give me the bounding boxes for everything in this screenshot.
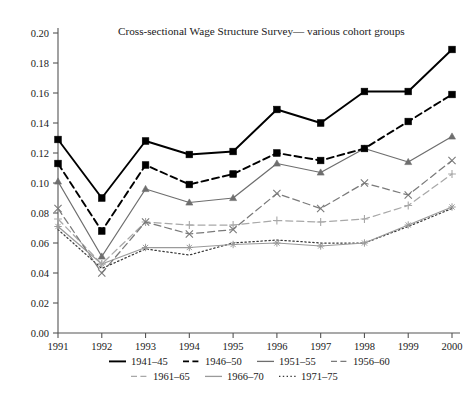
figure-container: 0.000.020.040.060.080.100.120.140.160.18… (0, 0, 467, 405)
series-marker-1956-60 (405, 191, 412, 198)
series-marker-1961-65 (448, 170, 456, 178)
series-line-1941-45 (58, 50, 452, 199)
series-marker-1946-50 (274, 150, 281, 157)
y-tick-label: 0.06 (31, 238, 49, 249)
legend-label-1946-50: 1946–50 (205, 356, 242, 367)
series-marker-1951-55 (55, 178, 62, 184)
legend-label-1971-75: 1971–75 (301, 371, 338, 382)
series-marker-1966-70 (405, 221, 412, 228)
series-marker-1956-60 (273, 190, 280, 197)
series-marker-1966-70 (229, 241, 236, 248)
series-marker-1961-65 (185, 221, 193, 229)
x-tick-label: 1998 (354, 341, 375, 352)
series-marker-1966-70 (273, 239, 280, 246)
series-marker-1951-55 (449, 133, 456, 139)
y-tick-label: 0.16 (31, 88, 49, 99)
series-marker-1941-45 (98, 195, 105, 202)
x-tick-label: 1999 (398, 341, 419, 352)
y-tick-label: 0.08 (31, 208, 49, 219)
y-tick-label: 0.20 (31, 28, 49, 39)
series-marker-1946-50 (186, 181, 193, 188)
legend-label-1951-55: 1951–55 (279, 356, 316, 367)
series-marker-1946-50 (230, 171, 237, 178)
wage-structure-line-chart: 0.000.020.040.060.080.100.120.140.160.18… (0, 0, 467, 405)
series-marker-1946-50 (98, 228, 105, 235)
x-tick-label: 1992 (91, 341, 112, 352)
series-marker-1956-60 (361, 179, 368, 186)
series-line-1961-65 (58, 174, 452, 264)
series-marker-1961-65 (317, 218, 325, 226)
series-marker-1946-50 (405, 118, 412, 125)
series-marker-1966-70 (54, 223, 61, 230)
x-tick-label: 2000 (442, 341, 463, 352)
x-tick-label: 1993 (135, 341, 156, 352)
series-marker-1961-65 (273, 217, 281, 225)
chart-title: Cross-sectional Wage Structure Survey— v… (118, 25, 405, 37)
series-marker-1946-50 (55, 160, 62, 167)
series-marker-1956-60 (98, 269, 105, 276)
series-marker-1966-70 (186, 244, 193, 251)
series-marker-1941-45 (361, 88, 368, 95)
x-tick-label: 1997 (310, 341, 331, 352)
x-tick-label: 1996 (266, 341, 287, 352)
x-tick-label: 1991 (48, 341, 69, 352)
series-marker-1941-45 (142, 138, 149, 145)
series-marker-1941-45 (186, 151, 193, 158)
series-marker-1941-45 (405, 88, 412, 95)
series-marker-1946-50 (142, 162, 149, 169)
y-tick-label: 0.04 (31, 268, 50, 279)
series-marker-1946-50 (361, 145, 368, 152)
series-marker-1941-45 (317, 120, 324, 127)
series-marker-1941-45 (274, 106, 281, 113)
y-tick-label: 0.10 (31, 178, 49, 189)
legend-label-1961-65: 1961–65 (153, 371, 190, 382)
series-marker-1951-55 (273, 160, 280, 166)
y-tick-label: 0.00 (31, 328, 49, 339)
y-tick-label: 0.14 (31, 118, 50, 129)
series-marker-1966-70 (361, 239, 368, 246)
series-line-1946-50 (58, 95, 452, 232)
y-tick-label: 0.18 (31, 58, 49, 69)
series-marker-1941-45 (55, 136, 62, 143)
series-marker-1946-50 (317, 157, 324, 164)
series-marker-1966-70 (448, 203, 455, 210)
y-tick-label: 0.02 (31, 298, 49, 309)
x-tick-label: 1995 (223, 341, 244, 352)
series-marker-1956-60 (317, 205, 324, 212)
series-marker-1966-70 (317, 242, 324, 249)
x-tick-label: 1994 (179, 341, 201, 352)
y-tick-label: 0.12 (31, 148, 49, 159)
series-marker-1941-45 (230, 148, 237, 155)
series-marker-1961-65 (361, 215, 369, 223)
series-marker-1951-55 (142, 185, 149, 191)
series-marker-1956-60 (448, 157, 455, 164)
series-marker-1961-65 (404, 202, 412, 210)
legend-label-1966-70: 1966–70 (227, 371, 264, 382)
series-marker-1946-50 (449, 91, 456, 98)
series-marker-1941-45 (449, 46, 456, 53)
legend-label-1956-60: 1956–60 (353, 356, 390, 367)
legend-label-1941-45: 1941–45 (131, 356, 168, 367)
series-line-1971-75 (58, 209, 452, 269)
series-line-1951-55 (58, 137, 452, 257)
series-marker-1966-70 (142, 244, 149, 251)
